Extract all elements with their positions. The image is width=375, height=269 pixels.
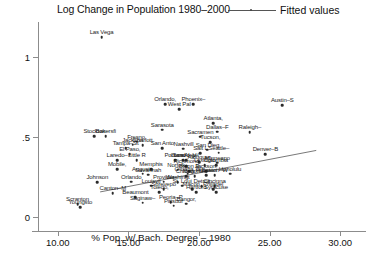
scatter-point-label: Omaha, N	[175, 166, 201, 172]
scatter-point	[192, 103, 195, 106]
scatter-point-label: Bakersfi	[96, 128, 116, 134]
scatter-point	[141, 144, 144, 147]
scatter-point	[161, 147, 164, 150]
x-axis-tick-label: 30.00	[328, 237, 352, 248]
scatter-point-label: Salt L	[193, 145, 207, 151]
scatter-point	[141, 201, 144, 204]
scatter-point-label: Johnson	[86, 174, 108, 180]
scatter-point	[216, 130, 219, 133]
scatter-point-label: Laredo–	[107, 152, 128, 158]
y-axis-tick-label: 0	[25, 211, 30, 222]
scatter-point-label: Raleigh–	[239, 124, 261, 130]
scatter-point-label: Savannah	[135, 167, 161, 173]
scatter-point-label: Phoenix–	[181, 96, 205, 102]
x-axis-title: % Pop. w/ Bach. Degree – 1980	[0, 232, 322, 243]
scatter-point	[112, 192, 115, 195]
scatter-point-label: Little R	[128, 152, 145, 158]
scatter-point	[185, 203, 188, 206]
scatter-point	[249, 131, 252, 134]
y-axis-tick	[33, 217, 38, 218]
scatter-point-label: San Anto	[151, 140, 174, 146]
scatter-point	[229, 172, 232, 175]
scatter-point	[161, 128, 164, 131]
chart-root: Log Change in Population 1980–2000 Fitte…	[0, 0, 375, 269]
plot-area: 0.51 10.0015.0020.0025.0030.00 Las VegaO…	[38, 22, 360, 231]
scatter-point	[172, 204, 175, 207]
chart-header: Log Change in Population 1980–2000 Fitte…	[0, 2, 375, 18]
scatter-point	[195, 191, 198, 194]
scatter-point	[93, 135, 96, 138]
fitted-line-icon	[228, 6, 276, 14]
scatter-point	[264, 153, 267, 156]
legend-item-label: Fitted values	[280, 4, 340, 16]
scatter-point	[130, 181, 133, 184]
scatter-point	[136, 159, 139, 162]
scatter-point	[164, 103, 167, 106]
scatter-point	[182, 148, 185, 151]
scatter-point-label: Atlanta,	[204, 115, 223, 121]
scatter-point	[100, 36, 103, 39]
scatter-point	[147, 174, 150, 177]
scatter-point-label: Austin–S	[271, 97, 294, 103]
scatter-point	[178, 108, 181, 111]
y-axis-tick	[33, 137, 38, 138]
y-axis-tick-label: 1	[25, 52, 30, 63]
y-axis-line	[38, 22, 39, 231]
scatter-point	[213, 174, 216, 177]
scatter-point-label: Sarasota	[151, 121, 174, 127]
scatter-point-label: Denver–B	[253, 146, 278, 152]
scatter-point-label: Tucson,	[200, 134, 220, 140]
scatter-point	[104, 135, 107, 138]
scatter-point-label: Orlando	[121, 174, 141, 180]
scatter-point	[281, 104, 284, 107]
scatter-point	[116, 168, 119, 171]
scatter-point-label: Las Vega	[90, 29, 114, 35]
scatter-point-label: Mobile,	[108, 161, 126, 167]
page-title: Log Change in Population 1980–2000	[57, 3, 230, 15]
scatter-point	[79, 206, 82, 209]
y-axis-tick-label: .5	[22, 131, 30, 142]
scatter-point-label: Syracuse	[204, 184, 228, 190]
y-axis-tick	[33, 57, 38, 58]
scatter-point-label: Bangor,	[176, 196, 196, 202]
scatter-point-label: Saginaw–	[130, 194, 155, 200]
scatter-point-label: Toledo,	[150, 184, 168, 190]
x-axis-tick	[340, 231, 341, 236]
chart-legend: Fitted values	[228, 4, 340, 16]
scatter-point-label: Nashvill	[174, 141, 194, 147]
scatter-point	[215, 191, 218, 194]
scatter-point-label: Youngsto	[69, 199, 93, 205]
scatter-point	[96, 181, 99, 184]
scatter-point-label: Seattle–	[208, 145, 229, 151]
